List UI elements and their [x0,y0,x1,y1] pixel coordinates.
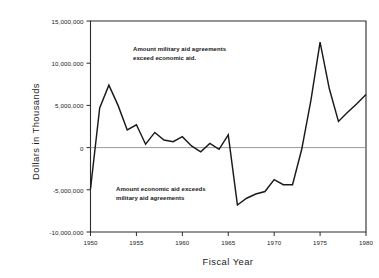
annotation-upper-line-2: exceed economic aid. [133,54,226,63]
data-series-line [91,42,367,205]
y-tick-label-5: -10,000,000 [0,229,84,236]
chart-figure [0,0,379,278]
x-axis-title: Fiscal Year [90,256,366,267]
annotation-lower-line-2: military aid agreements [116,194,206,203]
x-tick-label-3: 1965 [221,239,235,246]
x-tick-label-2: 1960 [175,239,189,246]
y-axis-title: Dollars in Thousands [30,52,41,212]
chart-page: 15,000,00010,000,0005,000,0000-5,000,000… [0,0,379,278]
x-tick-label-0: 1950 [83,239,97,246]
x-tick-label-1: 1955 [129,239,143,246]
annotation-upper-line-1: Amount military aid agreements [133,45,226,54]
y-tick-label-2: 5,000,000 [0,102,84,109]
y-tick-marks [87,21,91,232]
y-tick-label-3: 0 [0,144,84,151]
annotation-economic-exceeds: Amount economic aid exceeds military aid… [116,185,206,204]
y-tick-label-1: 10,000,000 [0,60,84,67]
annotation-military-exceeds: Amount military aid agreements exceed ec… [133,45,226,64]
annotation-lower-line-1: Amount economic aid exceeds [116,185,206,194]
x-tick-label-5: 1975 [313,239,327,246]
x-tick-label-4: 1970 [267,239,281,246]
x-tick-label-6: 1980 [359,239,373,246]
y-tick-label-0: 15,000,000 [0,18,84,25]
y-tick-label-4: -5,000,000 [0,186,84,193]
x-tick-marks [91,232,367,236]
